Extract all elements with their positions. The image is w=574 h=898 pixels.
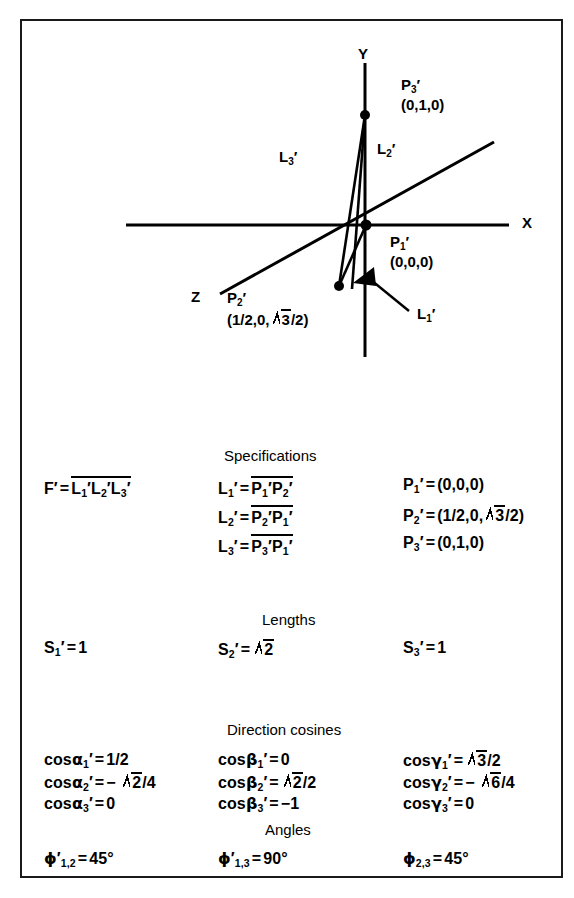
dircos-beta1-row: cosβ1′=0 [218,750,290,770]
angles-heading: Angles [265,821,311,838]
spec-P2-row: P2′=(1/2,0,3/2) [403,505,524,526]
spec-P3-row: P3′=(0,1,0) [403,534,484,553]
specifications-heading: Specifications [224,447,317,464]
point-P2-label: P2′ (1/2,0,3/2) [227,289,308,328]
coordinate-diagram: X Y Z P3′ (0,1,0) P1′ (0,0,0) P2′ (1/2,0… [22,21,565,366]
spec-F-row: F′=L1′L2′L3′ [44,476,131,498]
angle-1-2-row: ϕ′1,2=45° [44,849,114,869]
dircos-alpha1-row: cosα1′=1/2 [44,750,129,770]
math-summary: Specifications F′=L1′L2′L3′ L1′=P1′P2′ L… [22,366,565,878]
x-axis-label: X [522,215,532,232]
z-axis-label: Z [191,289,200,306]
spec-L2-row: L2′=P2′P1′ [218,505,293,528]
spec-L3-row: L3′=P3′P1′ [218,534,293,557]
L1-leader-line [371,280,409,311]
length-S3-row: S3′=1 [403,639,446,658]
dircos-gamma2-row: cosγ2′=− 6/4 [403,772,515,793]
dircos-gamma3-row: cosγ3′=0 [403,794,474,814]
point-P2-coords: (1/2,0,3/2) [227,311,308,328]
spec-L1-row: L1′=P1′P2′ [218,476,293,499]
length-S1-row: S1′=1 [44,639,87,658]
spec-F-rhs: L1′L2′L3′ [71,480,130,497]
figure-border: X Y Z P3′ (0,1,0) P1′ (0,0,0) P2′ (1/2,0… [20,19,563,878]
dircos-alpha3-row: cosα3′=0 [44,794,115,814]
edge-L2-line [352,115,365,289]
angle-2-3-row: ϕ2,3=45° [403,849,469,869]
dircos-alpha2-row: cosα2′=− 2/4 [44,772,156,793]
edge-L3-line [339,115,365,286]
edge-L2-label: L2′ [377,141,395,159]
spec-P1-row: P1′=(0,0,0) [403,476,484,495]
dircos-beta2-row: cosβ2′=2/2 [218,772,316,793]
direction-cosines-heading: Direction cosines [227,721,341,738]
edge-L1-label: L1′ [417,306,435,324]
y-axis-label: Y [358,46,368,63]
dircos-beta3-row: cosβ3′=−1 [218,794,299,814]
point-P3-label: P3′ (0,1,0) [401,76,444,113]
length-S2-row: S2′=2 [218,639,274,660]
lengths-heading: Lengths [262,611,315,628]
angle-1-3-row: ϕ′1,3=90° [218,849,288,869]
point-P1-label: P1′ (0,0,0) [390,233,433,270]
point-P3-dot [360,110,370,120]
point-P1-dot [361,220,372,231]
dircos-gamma1-row: cosγ1′=3/2 [403,750,501,771]
edge-L3-label: L3′ [279,149,297,167]
point-P2-dot [334,281,344,291]
